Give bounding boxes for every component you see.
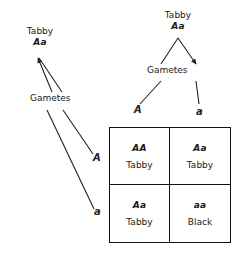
left-parent-branch-inner xyxy=(38,58,52,92)
top-parent-to-gametes-lines xyxy=(161,38,196,64)
left-gamete-allele-A: A xyxy=(93,152,101,163)
cell-genotype: Aa xyxy=(193,143,207,153)
top-parent: Tabby Aa xyxy=(152,10,204,32)
left-parent-phenotype: Tabby xyxy=(14,26,66,37)
cell-phenotype: Tabby xyxy=(126,160,152,170)
punnett-cell-bottom-left: Aa Tabby xyxy=(110,185,170,242)
left-gamete-allele-a: a xyxy=(94,206,101,217)
cell-genotype: Aa xyxy=(133,200,147,210)
punnett-square-grid: AA Tabby Aa Tabby Aa Tabby aa Black xyxy=(109,127,231,243)
cell-genotype: AA xyxy=(132,143,147,153)
top-gametes-label: Gametes xyxy=(147,65,188,76)
left-parent: Tabby Aa xyxy=(14,26,66,48)
top-gamete-line-A xyxy=(140,81,161,104)
left-gamete-line-A xyxy=(63,110,93,154)
punnett-cell-top-left: AA Tabby xyxy=(110,128,170,185)
left-gametes-to-parent-lines xyxy=(38,58,62,92)
left-parent-branch-outer xyxy=(39,58,62,92)
top-gamete-allele-A: A xyxy=(134,104,142,115)
left-parent-genotype: Aa xyxy=(14,37,66,48)
top-gamete-allele-a: a xyxy=(196,106,203,117)
top-parent-branch-left xyxy=(161,38,178,64)
top-parent-phenotype: Tabby xyxy=(152,10,204,21)
left-gametes-to-alleles-lines xyxy=(47,110,94,209)
left-gamete-line-a xyxy=(47,110,94,209)
top-parent-branch-right xyxy=(178,38,196,64)
cell-phenotype: Black xyxy=(188,217,212,227)
cell-phenotype: Tabby xyxy=(187,160,213,170)
left-gametes-label: Gametes xyxy=(30,93,71,104)
punnett-cell-bottom-right: aa Black xyxy=(170,185,230,242)
cell-phenotype: Tabby xyxy=(126,217,152,227)
top-parent-genotype: Aa xyxy=(152,21,204,32)
punnett-square-diagram: Tabby Aa Gametes A a Tabby Aa Gametes A … xyxy=(0,0,238,258)
top-gamete-line-a xyxy=(196,81,199,104)
top-gametes-to-alleles-lines xyxy=(140,81,199,104)
cell-genotype: aa xyxy=(194,200,207,210)
punnett-cell-top-right: Aa Tabby xyxy=(170,128,230,185)
